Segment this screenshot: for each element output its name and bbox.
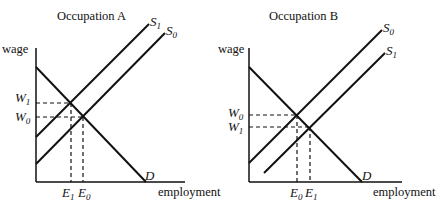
panel-b-supply-s0-curve [249, 30, 382, 163]
panel-b-supply-s1-curve [264, 53, 385, 173]
panel-b-title: Occupation B [269, 9, 338, 23]
panel-a-title: Occupation A [57, 9, 126, 23]
panel-a-demand-curve [36, 67, 146, 182]
panel-a-supply-s0-curve [36, 33, 165, 164]
panel-a-supply-s1-curve [36, 24, 149, 137]
panel-b-x-axis-label: employment [373, 185, 436, 199]
panel-b-y-axis-label: wage [218, 42, 245, 56]
panel-a-demand-label: D [144, 168, 155, 183]
panel-a-w0-label: W0 [15, 109, 31, 126]
panel-a-s0-label: S0 [166, 23, 178, 40]
panel-a-x-axis-label: employment [158, 185, 221, 199]
panel-b-demand-curve [249, 67, 362, 182]
panel-b-e0-label: E0 [289, 185, 303, 202]
panel-b-s0-label: S0 [383, 20, 395, 37]
panel-b-guide-lines [249, 115, 310, 182]
occupation-diagrams: Occupation A wage employment S1 S0 D W1 … [0, 0, 445, 206]
panel-b-s1-label: S1 [386, 43, 397, 60]
panel-b-demand-label: D [361, 168, 372, 183]
panel-a-e1-label: E1 [61, 185, 74, 202]
panel-occupation-b: Occupation B wage employment S0 S1 D W0 … [218, 9, 436, 202]
panel-a-y-axis-label: wage [2, 42, 29, 56]
panel-a-e0-label: E0 [77, 185, 91, 202]
panel-a-s1-label: S1 [150, 14, 161, 31]
panel-a-w1-label: W1 [15, 90, 30, 107]
panel-b-e1-label: E1 [304, 185, 317, 202]
panel-occupation-a: Occupation A wage employment S1 S0 D W1 … [2, 9, 221, 202]
